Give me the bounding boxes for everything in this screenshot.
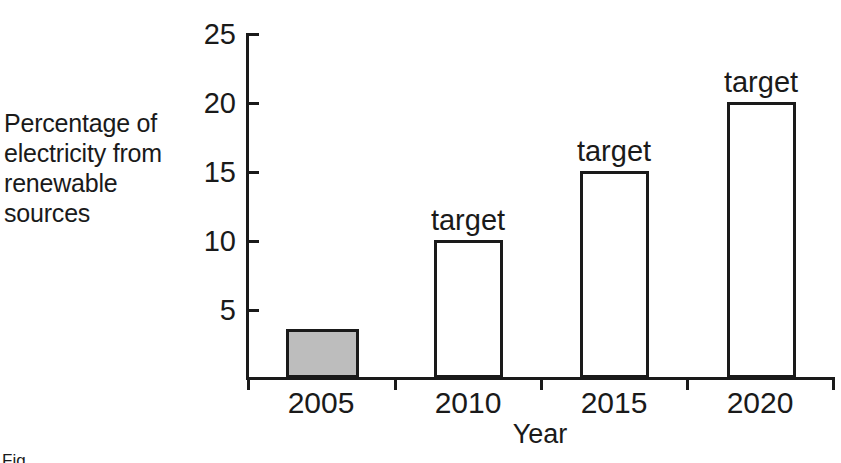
x-tick-mark-2 [540,378,543,390]
x-tick-label-2010: 2010 [408,388,528,418]
y-tick-mark-10 [247,240,259,243]
bar-annotation-2020: target [681,68,841,97]
y-tick-mark-20 [247,102,259,105]
y-tick-label-15: 15 [188,158,236,187]
x-tick-label-2020: 2020 [700,388,820,418]
y-tick-mark-5 [247,309,259,312]
bar-2015 [580,171,649,378]
bar-annotation-2015: target [534,137,694,166]
bar-annotation-2010: target [388,206,548,235]
bar-2005 [286,329,359,378]
y-tick-mark-25 [247,33,259,36]
bar-chart: Percentage of electricity from renewable… [0,0,841,463]
x-tick-mark-1 [394,378,397,390]
y-axis-title: Percentage of electricity from renewable… [4,108,200,228]
x-tick-mark-0 [247,378,250,390]
y-tick-label-10: 10 [188,227,236,256]
x-tick-mark-4 [832,378,835,390]
y-tick-label-5: 5 [188,296,236,325]
y-tick-label-25: 25 [188,20,236,49]
x-tick-label-2015: 2015 [554,388,674,418]
bar-2010 [434,240,503,378]
y-axis-line [246,33,249,380]
x-axis-title: Year [420,421,660,448]
y-tick-label-20: 20 [188,89,236,118]
y-tick-mark-15 [247,171,259,174]
x-tick-mark-3 [686,378,689,390]
bar-2020 [727,102,796,378]
x-tick-label-2005: 2005 [261,388,381,418]
figure-caption: Fig. [2,452,30,463]
